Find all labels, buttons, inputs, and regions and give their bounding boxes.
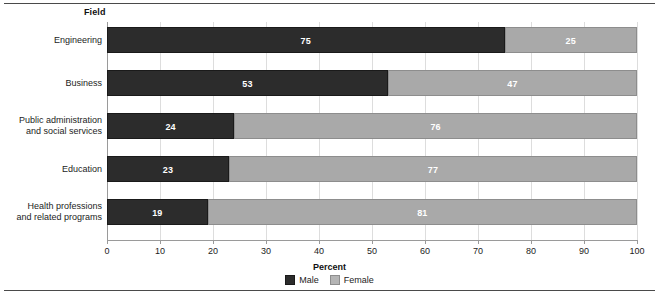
- stacked-bar-row[interactable]: 7525: [107, 27, 637, 53]
- x-axis-tick-mark: [319, 240, 320, 244]
- bar-segment-female[interactable]: 81: [208, 199, 637, 225]
- x-axis-tick-mark: [213, 240, 214, 244]
- x-axis-tick-mark: [584, 240, 585, 244]
- stacked-bar-chart-figure: Field EngineeringBusinessPublic administ…: [0, 0, 659, 297]
- stacked-bar-row[interactable]: 1981: [107, 199, 637, 225]
- bar-value-label-female: 47: [389, 71, 636, 97]
- category-label-line: Public administration: [0, 115, 102, 126]
- bar-segment-female[interactable]: 25: [505, 27, 638, 53]
- legend-item[interactable]: Male: [285, 275, 319, 285]
- category-label-line: Engineering: [0, 35, 102, 46]
- legend-label: Female: [344, 275, 374, 285]
- category-label-line: Education: [0, 164, 102, 175]
- category-label-line: and related programs: [0, 212, 102, 223]
- bar-value-label-male: 24: [108, 114, 233, 140]
- x-axis-tick-mark: [160, 240, 161, 244]
- x-axis-tick-mark: [425, 240, 426, 244]
- bar-value-label-male: 75: [108, 28, 504, 54]
- x-axis-tick-label: 100: [629, 246, 644, 256]
- x-axis-title: Percent: [0, 262, 659, 272]
- bar-value-label-male: 19: [108, 200, 207, 226]
- x-axis-tick-label: 80: [526, 246, 536, 256]
- x-axis-tick-mark: [478, 240, 479, 244]
- category-label: Business: [0, 78, 102, 89]
- bottom-divider-rule: [4, 290, 655, 291]
- stacked-bar-row[interactable]: 2476: [107, 113, 637, 139]
- x-axis-tick-label: 60: [420, 246, 430, 256]
- legend-swatch-female-icon: [330, 275, 340, 285]
- bar-value-label-female: 76: [235, 114, 636, 140]
- bar-value-label-male: 23: [108, 157, 228, 183]
- category-label: Education: [0, 164, 102, 175]
- category-label: Public administrationand social services: [0, 115, 102, 137]
- plot-area: 75255347247623771981 0102030405060708090…: [107, 22, 637, 240]
- bar-segment-male[interactable]: 75: [107, 27, 505, 53]
- bar-value-label-male: 53: [108, 71, 387, 97]
- x-axis-tick-mark: [531, 240, 532, 244]
- x-axis-tick-label: 40: [314, 246, 324, 256]
- x-axis-tick-label: 90: [579, 246, 589, 256]
- bar-value-label-female: 77: [230, 157, 636, 183]
- x-axis-tick-label: 30: [261, 246, 271, 256]
- category-label-column: EngineeringBusinessPublic administration…: [0, 22, 102, 240]
- stacked-bar-row[interactable]: 5347: [107, 70, 637, 96]
- bar-segment-male[interactable]: 53: [107, 70, 388, 96]
- x-axis-tick-label: 10: [155, 246, 165, 256]
- bar-value-label-female: 81: [209, 200, 636, 226]
- category-label-line: Business: [0, 78, 102, 89]
- x-axis-tick-label: 70: [473, 246, 483, 256]
- bar-segment-female[interactable]: 47: [388, 70, 637, 96]
- legend-item[interactable]: Female: [330, 275, 374, 285]
- x-axis-tick-mark: [266, 240, 267, 244]
- bar-segment-male[interactable]: 24: [107, 113, 234, 139]
- legend-label: Male: [299, 275, 319, 285]
- x-axis-tick-mark: [637, 240, 638, 244]
- x-axis-tick-label: 0: [104, 246, 109, 256]
- x-axis-tick-mark: [107, 240, 108, 244]
- category-label-line: Health professions: [0, 201, 102, 212]
- category-label: Health professionsand related programs: [0, 201, 102, 223]
- bar-segment-male[interactable]: 19: [107, 199, 208, 225]
- top-divider-rule: [4, 3, 655, 4]
- legend-swatch-male-icon: [285, 275, 295, 285]
- chart-legend: MaleFemale: [0, 275, 659, 285]
- bar-value-label-female: 25: [506, 28, 637, 54]
- gridline: [637, 22, 638, 240]
- category-label: Engineering: [0, 35, 102, 46]
- x-axis-tick-mark: [372, 240, 373, 244]
- bar-segment-female[interactable]: 76: [234, 113, 637, 139]
- x-axis-tick-label: 20: [208, 246, 218, 256]
- x-axis-tick-label: 50: [367, 246, 377, 256]
- y-axis-title: Field: [84, 7, 106, 17]
- bar-segment-male[interactable]: 23: [107, 156, 229, 182]
- category-label-line: and social services: [0, 126, 102, 137]
- stacked-bar-row[interactable]: 2377: [107, 156, 637, 182]
- bar-segment-female[interactable]: 77: [229, 156, 637, 182]
